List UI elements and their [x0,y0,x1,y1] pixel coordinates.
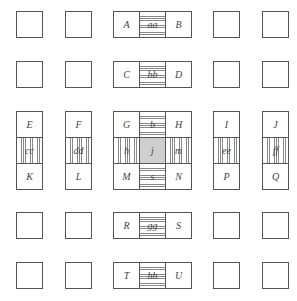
cell-label: T [123,271,131,281]
cell-ff: ff [262,137,289,164]
cell-P: P [213,163,240,190]
cell-F: F [65,111,92,138]
cell-K: K [16,163,43,190]
cell-label: C [122,70,131,80]
empty-square-r1c6 [213,11,240,38]
cell-E: E [16,111,43,138]
cell-bb: bb [139,61,166,88]
cell-label: b [149,120,156,130]
cell-aa: aa [139,11,166,38]
empty-square-r5c1 [16,262,43,289]
cell-S: S [165,212,192,239]
cell-Q: Q [262,163,289,190]
cell-J: J [262,111,289,138]
cell-B: B [165,11,192,38]
cell-label: K [25,172,34,182]
cell-label: Q [271,172,280,182]
cell-label: S [175,221,182,231]
empty-square-r5c7 [262,262,289,289]
cell-label: H [174,120,183,130]
empty-square-r1c1 [16,11,43,38]
cell-s: s [139,163,166,190]
cell-label: P [222,172,230,182]
empty-square-r4c7 [262,212,289,239]
cell-label: N [174,172,183,182]
cell-gg: gg [139,212,166,239]
cell-b: b [139,111,166,138]
cell-label: ff [272,146,280,156]
cell-M: M [113,163,140,190]
cell-j: j [139,137,166,164]
cell-label: s [150,172,156,182]
cell-label: bb [147,70,159,80]
empty-square-r2c1 [16,61,43,88]
cell-label: E [25,120,33,130]
cell-label: G [122,120,131,130]
cell-G: G [113,111,140,138]
cell-A: A [113,11,140,38]
cell-N: N [165,163,192,190]
empty-square-r1c7 [262,11,289,38]
cell-label: m [174,146,183,156]
cell-label: I [224,120,229,130]
cell-m: m [165,137,192,164]
cell-label: M [121,172,131,182]
cell-cc: cc [16,137,43,164]
cell-label: gg [147,221,159,231]
empty-square-r4c1 [16,212,43,239]
cell-label: D [174,70,183,80]
empty-square-r4c2 [65,212,92,239]
cell-H: H [165,111,192,138]
cell-label: ee [221,146,232,156]
empty-square-r5c2 [65,262,92,289]
cell-D: D [165,61,192,88]
cell-hh: hh [139,262,166,289]
cell-label: F [74,120,82,130]
cell-T: T [113,262,140,289]
cell-ee: ee [213,137,240,164]
cell-label: h [123,146,130,156]
cell-I: I [213,111,240,138]
empty-square-r1c2 [65,11,92,38]
empty-square-r5c6 [213,262,240,289]
cell-label: A [122,20,130,30]
cell-h: h [113,137,140,164]
cell-U: U [165,262,192,289]
cell-R: R [113,212,140,239]
cell-label: J [272,120,278,130]
cell-L: L [65,163,92,190]
cell-label: U [174,271,183,281]
empty-square-r2c6 [213,61,240,88]
cell-label: aa [147,20,159,30]
cell-label: cc [24,146,35,156]
cell-label: R [122,221,130,231]
empty-square-r2c2 [65,61,92,88]
cell-C: C [113,61,140,88]
cell-dd: dd [65,137,92,164]
cell-label: j [150,146,155,156]
empty-square-r4c6 [213,212,240,239]
cell-label: dd [73,146,85,156]
cell-label: hh [147,271,159,281]
cell-label: L [75,172,83,182]
cell-label: B [174,20,182,30]
empty-square-r2c7 [262,61,289,88]
